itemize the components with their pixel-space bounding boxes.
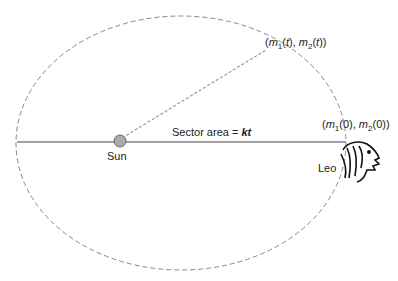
lion-head-icon	[341, 142, 379, 182]
sector-text: Sector area =	[172, 126, 241, 138]
label-sector-area: Sector area = kt	[172, 126, 251, 138]
sector-k: kt	[241, 126, 251, 138]
label-point-0: (m1(0), m2(0))	[322, 118, 390, 133]
orbit-canvas	[0, 0, 398, 281]
orbit-diagram: (m1(t), m2(t)) (m1(0), m2(0)) Sector are…	[0, 0, 398, 281]
orbit-ellipse	[16, 16, 346, 270]
label-point-t: (m1(t), m2(t))	[265, 36, 327, 51]
label-leo: Leo	[318, 162, 336, 174]
label-sun: Sun	[107, 150, 127, 162]
sun-icon	[114, 135, 126, 147]
radius-line	[122, 50, 266, 138]
